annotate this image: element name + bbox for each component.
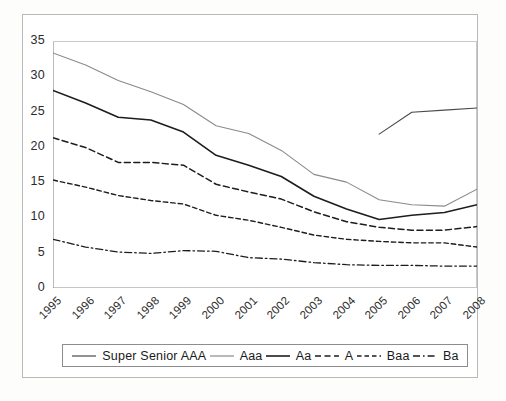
y-tick-label: 35 bbox=[19, 33, 45, 47]
y-tick-label: 5 bbox=[19, 245, 45, 259]
legend-entry-a[interactable]: A bbox=[314, 349, 354, 363]
plot-svg bbox=[53, 41, 477, 288]
legend-entry-aaa[interactable]: Aaa bbox=[209, 349, 263, 363]
plot-area bbox=[53, 41, 477, 288]
series-line-aa bbox=[53, 90, 477, 219]
legend-swatch-baa bbox=[356, 351, 382, 361]
series-line-aaa bbox=[53, 53, 477, 206]
legend-label: Aa bbox=[296, 349, 312, 363]
chart-figure: 05101520253035 1995199619971998199920002… bbox=[0, 0, 506, 401]
legend-swatch-ba bbox=[412, 351, 438, 361]
legend-label: Super Senior AAA bbox=[102, 349, 206, 363]
y-tick-label: 15 bbox=[19, 174, 45, 188]
legend-label: Ba bbox=[443, 349, 459, 363]
legend-label: A bbox=[345, 349, 354, 363]
series-line-baa bbox=[53, 180, 477, 247]
legend-label: Aaa bbox=[240, 349, 263, 363]
legend-entry-ba[interactable]: Ba bbox=[412, 349, 459, 363]
legend-entry-super-senior-aaa[interactable]: Super Senior AAA bbox=[71, 349, 206, 363]
y-tick-label: 25 bbox=[19, 104, 45, 118]
legend-swatch-aaa bbox=[209, 351, 235, 361]
legend-swatch-aa bbox=[265, 351, 291, 361]
legend-swatch-a bbox=[314, 351, 340, 361]
legend-label: Baa bbox=[387, 349, 410, 363]
series-line-a bbox=[53, 138, 477, 230]
y-tick-label: 20 bbox=[19, 139, 45, 153]
chart-legend: Super Senior AAAAaaAaABaaBa bbox=[62, 344, 468, 367]
y-tick-label: 30 bbox=[19, 68, 45, 82]
y-tick-label: 10 bbox=[19, 209, 45, 223]
legend-swatch-super-senior-aaa bbox=[71, 351, 97, 361]
y-tick-label: 0 bbox=[19, 280, 45, 294]
series-line-super-senior-aaa bbox=[379, 108, 477, 134]
legend-entry-aa[interactable]: Aa bbox=[265, 349, 312, 363]
legend-entry-baa[interactable]: Baa bbox=[356, 349, 410, 363]
